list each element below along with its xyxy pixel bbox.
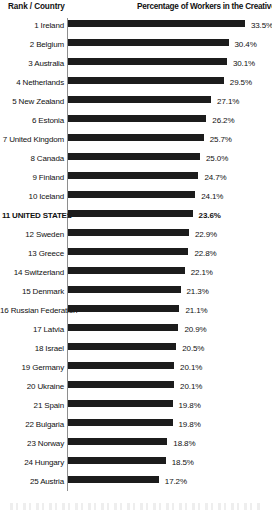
- bar-value-label: 24.1%: [201, 192, 223, 201]
- bar-row: 21 Spain19.8%: [0, 401, 272, 420]
- bar-row-label: 7 United Kingdom: [0, 135, 64, 144]
- bar: [68, 476, 159, 483]
- bar-row: 22 Bulgaria19.8%: [0, 420, 272, 439]
- bar-value-label: 19.8%: [179, 420, 201, 429]
- bar-row-label: 4 Netherlands: [0, 78, 64, 87]
- bar-row-label: 13 Greece: [0, 249, 64, 258]
- bar: [68, 438, 167, 445]
- bar: [68, 419, 173, 426]
- bar-row: 19 Germany20.1%: [0, 363, 272, 382]
- bar-row: 25 Austria17.2%: [0, 477, 272, 496]
- bar-row-label: 18 Israel: [0, 344, 64, 353]
- bar-row-label: 16 Russian Federation: [0, 306, 64, 315]
- bar-row: 6 Estonia26.2%: [0, 116, 272, 135]
- bar-row: 17 Latvia20.9%: [0, 325, 272, 344]
- bar-row-label: 19 Germany: [0, 363, 64, 372]
- column-header-percentage: Percentage of Workers in the Creative Cl…: [137, 2, 272, 11]
- bar-row-label: 3 Australia: [0, 59, 64, 68]
- bar: [68, 343, 176, 350]
- bar-value-label: 25.7%: [210, 135, 232, 144]
- bar-row: 5 New Zealand27.1%: [0, 97, 272, 116]
- bar-row-label: 5 New Zealand: [0, 97, 64, 106]
- bar-value-label: 30.1%: [233, 59, 255, 68]
- chart-header: Rank / Country Percentage of Workers in …: [0, 2, 272, 16]
- bar-row-label: 6 Estonia: [0, 116, 64, 125]
- bar-value-label: 23.6%: [199, 211, 221, 220]
- bar: [68, 248, 188, 255]
- bar-value-label: 33.5%: [251, 21, 272, 30]
- bar-value-label: 20.1%: [180, 382, 202, 391]
- bar-row: 4 Netherlands29.5%: [0, 78, 272, 97]
- bar-row: 12 Sweden22.9%: [0, 230, 272, 249]
- page-bleed-through-artifact: [10, 503, 262, 510]
- bar-value-label: 18.5%: [172, 458, 194, 467]
- bar: [68, 96, 211, 103]
- bar-value-label: 29.5%: [230, 78, 252, 87]
- bar-row-label: 20 Ukraine: [0, 382, 64, 391]
- bar-row-label: 22 Bulgaria: [0, 420, 64, 429]
- bar-row-label: 8 Canada: [0, 154, 64, 163]
- bar-row: 15 Denmark21.3%: [0, 287, 272, 306]
- bar-row: 7 United Kingdom25.7%: [0, 135, 272, 154]
- bar-row-label: 12 Sweden: [0, 230, 64, 239]
- bar-row-label: 21 Spain: [0, 401, 64, 410]
- bar: [68, 324, 178, 331]
- bar: [68, 134, 204, 141]
- bar-row-label: 14 Switzerland: [0, 268, 64, 277]
- bar: [68, 229, 189, 236]
- bar: [68, 210, 193, 217]
- bar: [68, 39, 229, 46]
- bar-row: 23 Norway18.8%: [0, 439, 272, 458]
- bar-row-label: 1 Ireland: [0, 21, 64, 30]
- bar-row: 20 Ukraine20.1%: [0, 382, 272, 401]
- bar-value-label: 22.9%: [195, 230, 217, 239]
- plot-area: 1 Ireland33.5%2 Belgium30.4%3 Australia3…: [0, 18, 272, 498]
- column-header-rank-country: Rank / Country: [8, 2, 65, 11]
- bar-row-label: 25 Austria: [0, 477, 64, 486]
- bar: [68, 20, 245, 27]
- bar-row-label: 15 Denmark: [0, 287, 64, 296]
- bar-value-label: 18.8%: [173, 439, 195, 448]
- bar: [68, 381, 174, 388]
- bar-row-label: 9 Finland: [0, 173, 64, 182]
- bar: [68, 172, 198, 179]
- bar-row-label: 24 Hungary: [0, 458, 64, 467]
- bar-row: 8 Canada25.0%: [0, 154, 272, 173]
- bar: [68, 400, 173, 407]
- bar: [68, 362, 174, 369]
- bar-row-label: 17 Latvia: [0, 325, 64, 334]
- bar-value-label: 17.2%: [165, 477, 187, 486]
- bar-value-label: 26.2%: [212, 116, 234, 125]
- bar-row: 10 Iceland24.1%: [0, 192, 272, 211]
- bar-row: 9 Finland24.7%: [0, 173, 272, 192]
- bar-value-label: 22.1%: [191, 268, 213, 277]
- bar: [68, 191, 195, 198]
- bar: [68, 115, 206, 122]
- bar-row: 2 Belgium30.4%: [0, 40, 272, 59]
- bar: [68, 305, 179, 312]
- creative-class-bar-chart: Rank / Country Percentage of Workers in …: [0, 0, 272, 513]
- bar-value-label: 21.1%: [185, 306, 207, 315]
- bar: [68, 286, 181, 293]
- bar-row-label: 10 Iceland: [0, 192, 64, 201]
- bar: [68, 58, 227, 65]
- bar-value-label: 25.0%: [206, 154, 228, 163]
- bar-value-label: 19.8%: [179, 401, 201, 410]
- bar-row: 16 Russian Federation21.1%: [0, 306, 272, 325]
- bar-value-label: 22.8%: [194, 249, 216, 258]
- bar-value-label: 20.9%: [184, 325, 206, 334]
- bar-value-label: 27.1%: [217, 97, 239, 106]
- bar-row: 1 Ireland33.5%: [0, 21, 272, 40]
- bar-row-label: 11 UNITED STATES: [2, 211, 64, 220]
- bar-value-label: 20.5%: [182, 344, 204, 353]
- bar-value-label: 24.7%: [204, 173, 226, 182]
- bar-row: 11 UNITED STATES23.6%: [0, 211, 272, 230]
- bar-row: 3 Australia30.1%: [0, 59, 272, 78]
- bar: [68, 153, 200, 160]
- bar-row: 13 Greece22.8%: [0, 249, 272, 268]
- bar-row: 18 Israel20.5%: [0, 344, 272, 363]
- bar-row: 24 Hungary18.5%: [0, 458, 272, 477]
- bar-value-label: 21.3%: [187, 287, 209, 296]
- bar-row-label: 23 Norway: [0, 439, 64, 448]
- bar: [68, 77, 224, 84]
